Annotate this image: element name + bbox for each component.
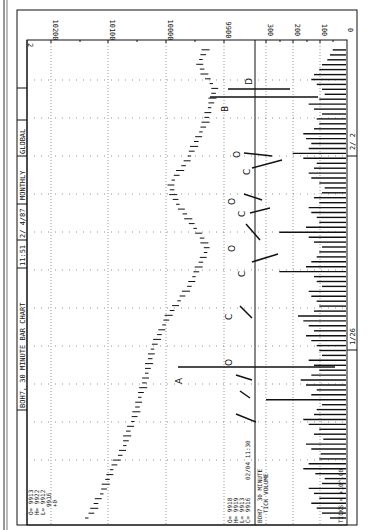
line-O [244,194,262,200]
svg-text:10000: 10000 [166,19,174,40]
svg-text:A: A [174,377,184,384]
date-label-1-26: 1/26 [349,328,357,345]
svg-text:0: 0 [346,28,354,32]
svg-text:200: 200 [293,24,301,37]
line-O [246,224,260,240]
svg-text:100: 100 [320,24,328,37]
header-period: MONTHLY [19,170,27,200]
volume-bars [266,50,346,518]
svg-text:O: O [232,151,242,158]
ohlc-summary-bottom: O= 9918 H= 9919 L= 9913 C= 9916 02/04 11… [226,440,251,523]
svg-text:O: O [227,198,237,205]
svg-text:C: C [224,314,234,320]
ohlc-summary-top: O= 9913 H= 9922 L= 9912 9916 +0 [27,489,58,515]
svg-text:9900: 9900 [224,22,232,39]
volume-axis-labels: 300 200 100 0 [266,24,354,37]
header-scope: GLOBAL [19,129,27,154]
svg-text:+0: +0 [51,499,58,507]
svg-text:10200: 10200 [51,19,59,40]
svg-text:TICK VOLUME: TICK VOLUME [262,473,269,513]
price-bars [85,50,218,518]
svg-text:B: B [220,106,230,112]
header-date: 2/ 4/87 [19,208,27,238]
svg-text:02/04 11:30: 02/04 11:30 [244,440,251,480]
svg-text:300: 300 [266,24,274,37]
rotated-bar-chart: BOH7, 30 MINUTE BAR CHART 11:51 2/ 4/87 … [0,0,367,530]
svg-text:O: O [224,359,234,366]
plot-border [27,40,347,525]
date-label-2-2: 2/ 2 [349,133,357,150]
volume-footer: TICKS = +10^.00 [337,468,344,523]
line-C [252,254,278,262]
header-time: 11:51 [19,245,27,266]
grid-horizontal [27,80,347,460]
volume-panel-title: BOH7, 30 MINUTE TICK VOLUME TICKS = +10^… [256,468,344,523]
line-O [244,153,272,156]
svg-text:10100: 10100 [108,19,116,40]
line-C [250,208,270,213]
chart-title: BOH7, 30 MINUTE BAR CHART [19,302,27,408]
svg-text:O: O [227,245,237,252]
page-number: 2 [26,43,34,47]
svg-text:C: C [242,169,252,175]
line-C [240,306,252,318]
line-O [236,414,256,422]
svg-text:C= 9916: C= 9916 [244,497,251,523]
line-C [252,160,282,168]
annotation-labels: A B D C O C O C O C O [174,78,254,384]
grid-vertical [51,40,320,525]
svg-text:D: D [244,78,254,85]
price-axis-labels: 10200 10100 10000 9900 [51,19,232,40]
line-O [236,375,252,380]
line-C [240,391,250,398]
chart-frame [17,10,357,525]
title-strip: BOH7, 30 MINUTE BAR CHART 11:51 2/ 4/87 … [17,88,27,410]
svg-text:C: C [237,211,247,217]
svg-text:C: C [237,271,247,277]
